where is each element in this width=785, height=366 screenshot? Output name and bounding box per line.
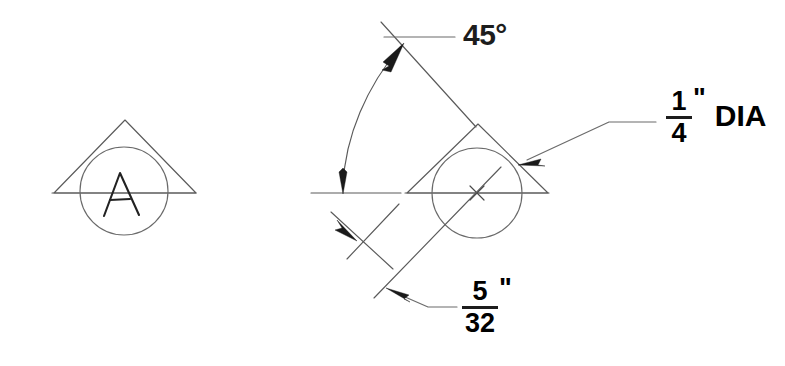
diameter-leader-group (518, 122, 656, 166)
symbol-right-group (405, 124, 549, 238)
fillet-leader-arrowhead (386, 288, 410, 302)
angle-arc-arrowhead-upper (382, 43, 404, 72)
triangle-right (407, 124, 548, 193)
diameter-fraction: 1 4 (666, 88, 692, 147)
symbol-left-group (52, 120, 196, 235)
diameter-numerator: 1 (668, 88, 689, 116)
diameter-denominator: 4 (668, 119, 689, 147)
fillet-fraction: 5 32 (462, 278, 498, 337)
fillet-inch-mark: " (499, 275, 512, 302)
diameter-inch-mark: " (693, 85, 706, 112)
diameter-leader-arrowhead (518, 159, 545, 166)
reference-geometry-group (311, 22, 501, 298)
offset-dimension-arrow-group (335, 220, 357, 241)
angle-dimension-label: 45° (463, 20, 507, 50)
technical-drawing-canvas: 45° 1 4 " DIA 5 32 " (0, 0, 785, 366)
inclined-axis-upper (381, 22, 476, 127)
offset-dimension-arrowhead (335, 220, 357, 241)
fillet-size-label: 5 32 " (462, 278, 512, 337)
angle-arc-arrowhead-lower (339, 168, 347, 194)
fillet-leader-group (386, 288, 457, 307)
diameter-callout-label: 1 4 " DIA (666, 88, 766, 147)
letter-a-glyph (104, 173, 139, 216)
drawing-vector-layer (0, 0, 785, 366)
diameter-leader-line (527, 122, 656, 160)
fillet-numerator: 5 (470, 278, 491, 306)
circle-left (80, 147, 168, 235)
fillet-denominator: 32 (462, 309, 498, 337)
diameter-suffix-dia: DIA (715, 101, 767, 131)
letter-a-crossbar (110, 199, 130, 200)
